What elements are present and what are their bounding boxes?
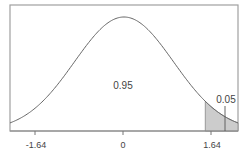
tick-label-pos: 1.64: [203, 140, 221, 150]
chart-svg: -1.64 0 1.64 0.95 0.05: [0, 0, 251, 159]
center-area-label: 0.95: [113, 80, 133, 91]
density-curve: [10, 17, 238, 123]
tick-label-zero: 0: [120, 140, 125, 150]
tail-area-label: 0.05: [216, 94, 236, 105]
normal-distribution-chart: -1.64 0 1.64 0.95 0.05: [0, 0, 251, 159]
tick-label-neg: -1.64: [26, 140, 47, 150]
plot-frame: [10, 5, 238, 131]
